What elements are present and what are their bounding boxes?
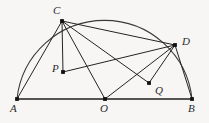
segment-C-O <box>62 21 105 99</box>
semicircle-arc <box>17 20 192 99</box>
vertex-dot-d <box>173 43 177 47</box>
vertex-dot-b <box>190 97 194 101</box>
point-label-c: C <box>53 5 60 16</box>
vertex-dot-layer <box>15 19 194 101</box>
vertex-dot-c <box>60 19 64 23</box>
point-label-a: A <box>10 103 17 114</box>
vertex-dot-q <box>147 81 151 85</box>
segment-D-B <box>175 45 192 99</box>
segment-layer <box>17 21 192 99</box>
arc-layer <box>17 20 192 99</box>
point-label-p: P <box>52 63 59 74</box>
vertex-dot-a <box>15 97 19 101</box>
vertex-dot-p <box>61 70 65 74</box>
point-label-d: D <box>182 36 190 47</box>
vertex-dot-o <box>103 97 107 101</box>
point-label-b: B <box>188 103 195 114</box>
point-label-q: Q <box>155 85 163 96</box>
segment-A-C <box>17 21 62 99</box>
geometry-figure: ABCDOPQ <box>0 0 209 123</box>
segment-C-P <box>62 21 63 72</box>
point-label-o: O <box>100 103 108 114</box>
